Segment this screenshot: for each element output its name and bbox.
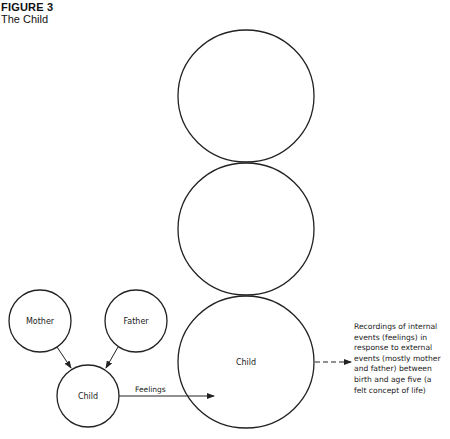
description-line: felt concept of life)	[354, 386, 450, 397]
mother-label: Mother	[26, 317, 55, 326]
mother-to-child-arrow	[57, 347, 71, 368]
description-text: Recordings of internal events (feelings)…	[354, 322, 450, 396]
child-label: Child	[78, 392, 98, 401]
description-line: Recordings of internal	[354, 322, 450, 333]
description-line: events (mostly mother	[354, 354, 450, 365]
father-to-child-arrow	[106, 347, 118, 368]
description-line: events (feelings) in	[354, 333, 450, 344]
top-circle	[178, 30, 314, 162]
father-label: Father	[123, 317, 149, 326]
feelings-label: Feelings	[135, 385, 166, 394]
description-line: and father) between	[354, 364, 450, 375]
middle-circle	[178, 163, 314, 295]
big-child-label: Child	[236, 358, 256, 367]
description-line: birth and age five (a	[354, 375, 450, 386]
description-line: response to external	[354, 343, 450, 354]
